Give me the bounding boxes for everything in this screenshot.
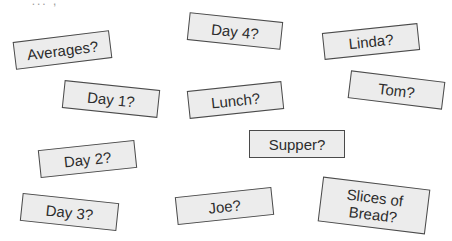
card-tom: Tom? bbox=[348, 70, 446, 109]
card-day2: Day 2? bbox=[38, 140, 137, 178]
card-joe: Joe? bbox=[175, 187, 274, 225]
card-label: Slices of Bread? bbox=[333, 184, 415, 227]
card-day3: Day 3? bbox=[20, 193, 119, 231]
card-label: Tom? bbox=[377, 79, 415, 100]
card-label: Linda? bbox=[348, 31, 395, 53]
card-label: Day 1? bbox=[86, 88, 135, 110]
card-label: Day 2? bbox=[63, 148, 112, 170]
cropped-text-fragment: ' ... , bbox=[22, 0, 58, 8]
card-averages: Averages? bbox=[13, 30, 113, 70]
card-label: Averages? bbox=[26, 37, 99, 63]
card-slices-of-bread: Slices of Bread? bbox=[318, 177, 431, 235]
card-supper: Supper? bbox=[249, 130, 345, 158]
card-day4: Day 4? bbox=[187, 12, 283, 50]
card-label: Day 4? bbox=[210, 20, 259, 42]
card-linda: Linda? bbox=[322, 23, 420, 60]
card-label: Joe? bbox=[207, 196, 241, 216]
card-label: Supper? bbox=[269, 136, 326, 153]
card-lunch: Lunch? bbox=[187, 81, 284, 119]
card-label: Day 3? bbox=[45, 201, 94, 223]
card-day1: Day 1? bbox=[62, 80, 160, 118]
card-label: Lunch? bbox=[210, 89, 261, 111]
